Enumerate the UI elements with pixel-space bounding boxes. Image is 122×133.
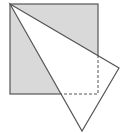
folded-square-diagram (0, 0, 122, 133)
